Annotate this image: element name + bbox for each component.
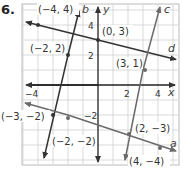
- point-label-4-neg4: (4, −4): [129, 156, 164, 167]
- line-d-label: d: [168, 42, 176, 55]
- y-tick--2: −2: [84, 111, 97, 121]
- point-label-neg2-2: (−2, 2): [30, 43, 65, 54]
- x-tick-2: 2: [124, 89, 130, 99]
- line-c-label: c: [164, 3, 170, 16]
- x-tick-4: 4: [155, 89, 161, 99]
- point-label-neg4-4: (−4, 4): [38, 4, 73, 15]
- point-neg2-2: [66, 53, 70, 57]
- point-label-neg3-neg2: (−3, −2): [1, 111, 45, 122]
- y-tick-2: 2: [88, 51, 94, 61]
- x-tick--4: −4: [25, 89, 39, 99]
- point-neg3-neg2: [51, 113, 55, 117]
- y-axis-label: y: [102, 3, 110, 16]
- y-tick-4: 4: [88, 21, 94, 31]
- point-label-2-neg3: (2, −3): [135, 123, 170, 134]
- point-neg4-4: [36, 23, 40, 27]
- point-3-1: [143, 68, 147, 72]
- point-label-0-3: (0, 3): [102, 26, 129, 37]
- point-label-3-1: (3, 1): [116, 58, 143, 69]
- x-axis-label: x: [167, 86, 175, 99]
- point-label-neg2-neg2: (−2, −2): [52, 136, 96, 147]
- point-4-neg4: [158, 146, 162, 150]
- point-0-3: [96, 38, 100, 42]
- line-a-label: a: [170, 137, 177, 150]
- point-2-neg3: [127, 132, 131, 136]
- coordinate-plane: y x −4 2 4 4 2 −2 d b c a (−4, 4) (0, 3)…: [0, 0, 183, 170]
- point-neg2-neg2: [66, 116, 70, 120]
- line-b-label: b: [82, 3, 89, 16]
